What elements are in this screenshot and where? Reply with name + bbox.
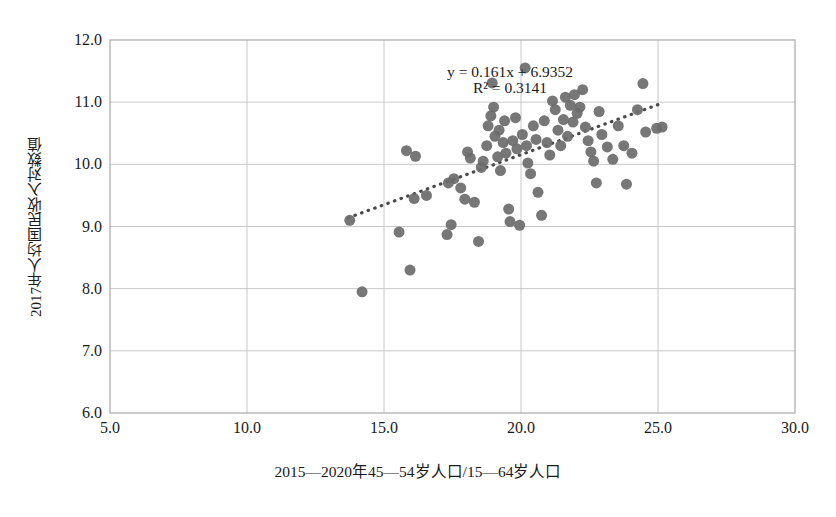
x-tick-label: 20.0 <box>491 420 551 436</box>
x-axis-title: 2015—2020年45—54岁人口/15—64岁人口 <box>0 459 836 481</box>
x-tick-label: 5.0 <box>80 420 140 436</box>
y-tick-label: 10.0 <box>54 156 102 172</box>
x-tick-label: 25.0 <box>628 420 688 436</box>
x-tick-label: 15.0 <box>354 420 414 436</box>
r-squared-label: R² = 0.3141 <box>410 78 610 99</box>
y-tick-label: 7.0 <box>54 343 102 359</box>
x-tick-label: 30.0 <box>765 420 825 436</box>
x-tick-label: 10.0 <box>217 420 277 436</box>
y-tick-label: 8.0 <box>54 281 102 297</box>
y-tick-label: 9.0 <box>54 219 102 235</box>
scatter-chart: 2017年人均国民收入对数值 6.07.08.09.010.011.012.0 … <box>0 0 836 517</box>
y-tick-label: 11.0 <box>54 94 102 110</box>
y-axis-tick-labels: 6.07.08.09.010.011.012.0 <box>52 0 102 517</box>
y-axis-title: 2017年人均国民收入对数值 <box>22 40 48 415</box>
y-tick-label: 12.0 <box>54 32 102 48</box>
y-tick-label: 6.0 <box>54 405 102 421</box>
